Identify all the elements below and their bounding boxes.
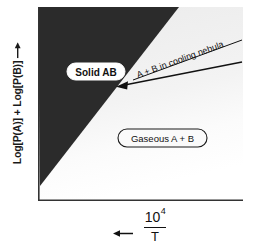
y-axis-label-text: Log[P(A)] + Log[P(B)] <box>11 60 23 163</box>
fraction-numerator-base: 10 <box>145 210 161 225</box>
x-axis-label-fraction: 10 4 T <box>142 210 169 243</box>
x-axis-label-container: 10 4 T <box>38 206 243 249</box>
plot-svg: Solid AB Gaseous A + B A + B in cooling … <box>38 7 243 201</box>
up-arrow-icon <box>13 41 22 57</box>
gas-region-label: Gaseous A + B <box>118 129 207 147</box>
solid-label-text: Solid AB <box>75 67 116 78</box>
phase-diagram-figure: Log[P(A)] + Log[P(B)] <box>0 0 254 249</box>
y-axis-label: Log[P(A)] + Log[P(B)] <box>11 41 23 163</box>
solid-region-label: Solid AB <box>67 63 125 80</box>
y-axis-label-container: Log[P(A)] + Log[P(B)] <box>0 0 34 205</box>
gas-label-text: Gaseous A + B <box>131 133 194 144</box>
fraction-denominator: T <box>151 229 159 244</box>
plot-area: Solid AB Gaseous A + B A + B in cooling … <box>38 7 243 201</box>
fraction-numerator: 10 4 <box>142 210 169 226</box>
fraction-numerator-exponent: 4 <box>161 207 166 216</box>
fraction-bar <box>144 227 166 228</box>
left-arrow-icon <box>113 224 133 242</box>
